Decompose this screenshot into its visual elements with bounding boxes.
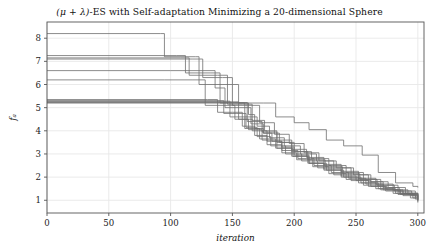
y-tick-label: 7 (36, 56, 41, 66)
x-axis: 050100150200250300 (44, 213, 426, 228)
y-tick-label: 2 (36, 172, 41, 182)
y-tick-label: 5 (36, 103, 41, 113)
y-tick-label: 4 (36, 126, 42, 136)
x-tick-label: 150 (224, 218, 240, 228)
line-chart-plot: 05010015020025030012345678iterationfₐ (0, 0, 439, 251)
x-tick-label: 100 (162, 218, 178, 228)
y-axis-label: fₐ (8, 114, 18, 122)
x-tick-label: 250 (348, 218, 364, 228)
x-tick-label: 200 (286, 218, 302, 228)
y-axis: 12345678 (36, 33, 47, 205)
x-tick-label: 50 (103, 218, 114, 228)
x-tick-label: 300 (410, 218, 426, 228)
x-tick-label: 0 (44, 218, 49, 228)
y-tick-label: 6 (36, 80, 41, 90)
y-tick-label: 3 (36, 149, 41, 159)
chart-figure: (μ + λ)-ES with Self-adaptation Minimizi… (0, 0, 439, 251)
y-tick-label: 8 (36, 33, 41, 43)
y-tick-label: 1 (36, 195, 41, 205)
x-axis-label: iteration (216, 233, 255, 243)
